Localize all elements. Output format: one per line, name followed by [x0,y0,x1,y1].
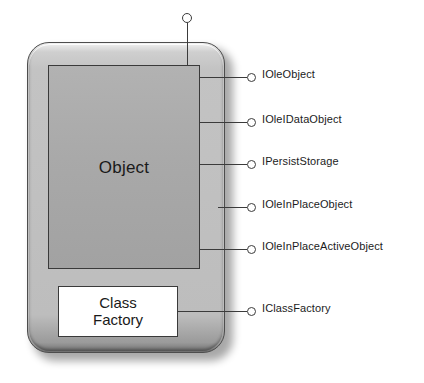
lollipop-circle-icon [247,203,256,212]
interface-label: IOleInPlaceActiveObject [262,240,383,252]
interface-connector-line [178,311,247,312]
lollipop-circle-icon [182,13,192,23]
interface-label: IOleIDataObject [262,113,342,125]
interface-label: IClassFactory [262,302,331,314]
interface-label: IOleObject [262,68,315,80]
lollipop-circle-icon [247,73,256,82]
interface-lollipop: IOleObject [0,70,424,86]
interface-label: IPersistStorage [262,155,339,167]
interface-connector-line [200,77,247,78]
lollipop-circle-icon [247,118,256,127]
interface-label: IOleInPlaceObject [262,198,352,210]
lollipop-circle-icon [247,307,256,316]
interface-lollipop: IOleInPlaceActiveObject [0,242,424,258]
interface-lollipop: IOleInPlaceObject [0,200,424,216]
interface-lollipop: IOleIDataObject [0,115,424,131]
com-interface-diagram: Object Class Factory IUnknown IOleObject… [0,0,424,383]
interface-lollipop: IPersistStorage [0,157,424,173]
interface-connector-line [187,23,188,66]
lollipop-circle-icon [247,245,256,254]
lollipop-circle-icon [247,160,256,169]
interface-lollipop: IClassFactory [0,304,424,320]
interface-connector-line [200,122,247,123]
interface-connector-line [218,207,247,208]
interface-connector-line [200,164,247,165]
interface-connector-line [200,249,247,250]
